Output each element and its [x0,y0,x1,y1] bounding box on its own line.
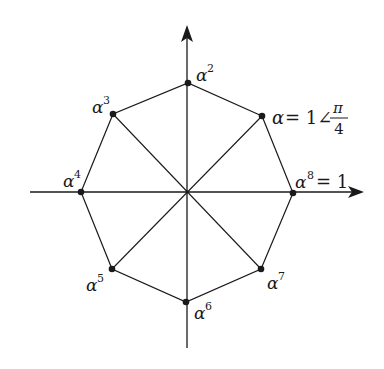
vertex-dot-alpha3 [110,111,117,118]
vertex-dot-alpha6 [183,299,190,306]
label-alpha1-suffix: = 1∠ [285,107,332,128]
label-alpha8-suffix: = 1 [316,171,348,192]
label-alpha8-sup: 8 [307,169,314,182]
label-alpha5-sup: 5 [97,272,104,285]
roots-of-unity-diagram: α = 1∠ π 4 α 2 α 3 α 4 α 5 α 6 α 7 α 8 =… [0,0,384,369]
label-alpha2: α 2 [196,62,214,85]
label-alpha1-fraction-denominator: 4 [334,120,344,138]
label-alpha7-sup: 7 [278,270,285,283]
vertex-dot-alpha2 [185,80,192,87]
vertex-dot-alpha1 [259,113,266,120]
label-alpha6: α 6 [194,300,212,323]
label-alpha3-sup: 3 [103,94,110,107]
label-alpha2-sup: 2 [207,62,214,75]
label-alpha7: α 7 [267,270,285,293]
vertex-dot-alpha5 [109,266,116,273]
label-alpha8-base: α [295,172,307,192]
origin-dot [186,191,189,194]
label-alpha4: α 4 [63,168,81,191]
label-alpha6-sup: 6 [205,300,212,313]
label-alpha1-base: α [272,107,284,128]
vertex-dot-alpha7 [258,266,265,273]
label-alpha5: α 5 [86,272,104,295]
vertex-dot-alpha4 [78,189,85,196]
label-alpha4-sup: 4 [74,168,81,181]
label-alpha8: α 8 = 1 [295,169,348,192]
label-alpha3: α 3 [92,94,110,117]
label-alpha1-fraction-numerator: π [332,99,344,117]
label-alpha1: α = 1∠ π 4 [272,99,348,138]
